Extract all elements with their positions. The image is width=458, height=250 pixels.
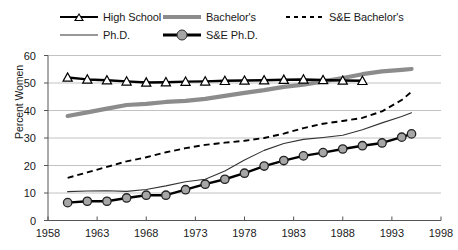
- x-tick-1963: 1963: [77, 228, 117, 239]
- x-tick-1993: 1993: [372, 228, 412, 239]
- x-tick-1998: 1998: [421, 228, 458, 239]
- x-tick-1988: 1988: [323, 228, 363, 239]
- x-tick-1973: 1973: [175, 228, 215, 239]
- x-tick-1968: 1968: [126, 228, 166, 239]
- x-tick-1978: 1978: [225, 228, 265, 239]
- x-tick-1983: 1983: [274, 228, 314, 239]
- x-tick-1958: 1958: [28, 228, 68, 239]
